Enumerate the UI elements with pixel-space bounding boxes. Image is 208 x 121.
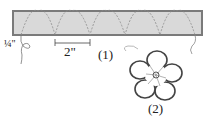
fabric-strip [13,11,202,35]
step-2-label: (2) [148,102,163,115]
thread-tail-left [21,35,30,64]
step-1-label: (1) [98,48,113,61]
thread-tail-right [191,35,196,54]
spacing-label: 2" [64,45,76,58]
seam-allowance-label: ¼" [4,39,16,49]
flower-icon [124,46,182,100]
